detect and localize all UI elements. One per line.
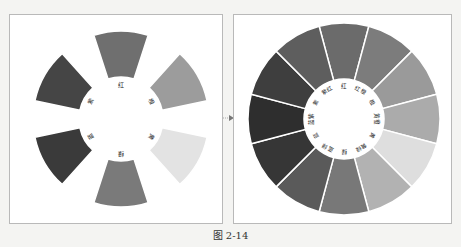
segment-label: 黄	[368, 131, 378, 140]
segment-label: 蓝	[86, 132, 95, 141]
wheel-segment: 红	[94, 31, 148, 88]
wheel-segment: 蓝	[35, 128, 95, 185]
segment-label: 蓝	[310, 131, 319, 140]
wheel-segment: 绿	[94, 151, 148, 208]
six-color-wheel: 红橙黄绿蓝紫	[10, 15, 224, 225]
segment-label: 红	[341, 82, 347, 89]
segment-label: 红	[118, 81, 124, 88]
segment-label: 橙	[368, 98, 378, 107]
segment-label: 绿	[341, 149, 347, 156]
segment-label: 紫	[86, 97, 95, 106]
twelve-color-wheel-panel: 红红橙橙黄橙黄黄绿绿蓝绿蓝蓝紫紫紫红	[233, 14, 452, 224]
segment-label: 橙	[146, 97, 156, 106]
figure-caption: 图 2-14	[0, 227, 461, 242]
segment-label: 黄橙	[373, 113, 381, 125]
wheel-segment: 橙	[146, 54, 207, 111]
twelve-color-wheel: 红红橙橙黄橙黄黄绿绿蓝绿蓝蓝紫紫紫红	[234, 15, 453, 225]
wheel-segment: 黄	[146, 128, 207, 185]
segment-label: 蓝紫	[307, 113, 314, 125]
wheel-segment: 紫	[35, 54, 95, 111]
six-color-wheel-panel: 红橙黄绿蓝紫	[9, 14, 223, 224]
segment-label: 绿	[118, 151, 124, 158]
segment-label: 紫	[311, 98, 319, 106]
segment-label: 黄	[146, 132, 156, 141]
